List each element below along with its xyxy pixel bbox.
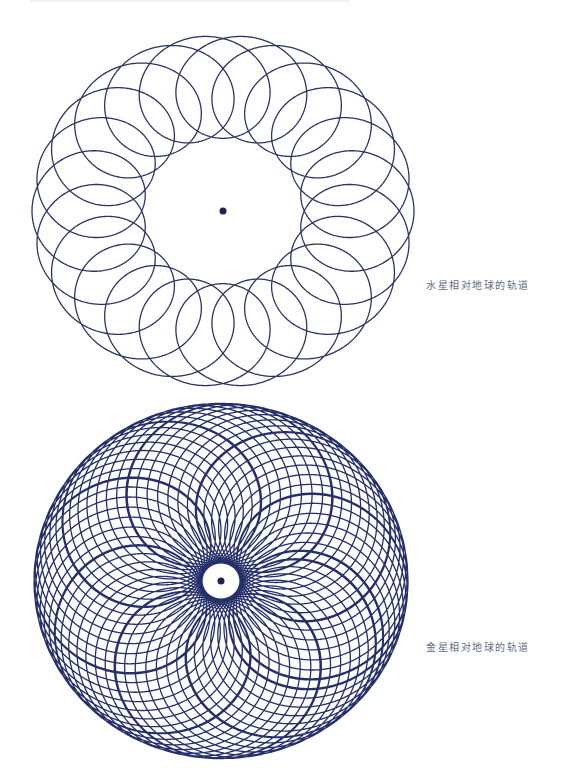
mercury-orbit-figure xyxy=(0,0,440,400)
earth-center-dot xyxy=(218,578,225,585)
venus-caption: 金星相对地球的轨道 xyxy=(426,639,530,654)
earth-center-dot xyxy=(220,208,227,215)
venus-orbit-path xyxy=(34,403,408,758)
mercury-caption: 水星相对地球的轨道 xyxy=(426,277,530,292)
mercury-orbit-plot xyxy=(0,0,440,400)
